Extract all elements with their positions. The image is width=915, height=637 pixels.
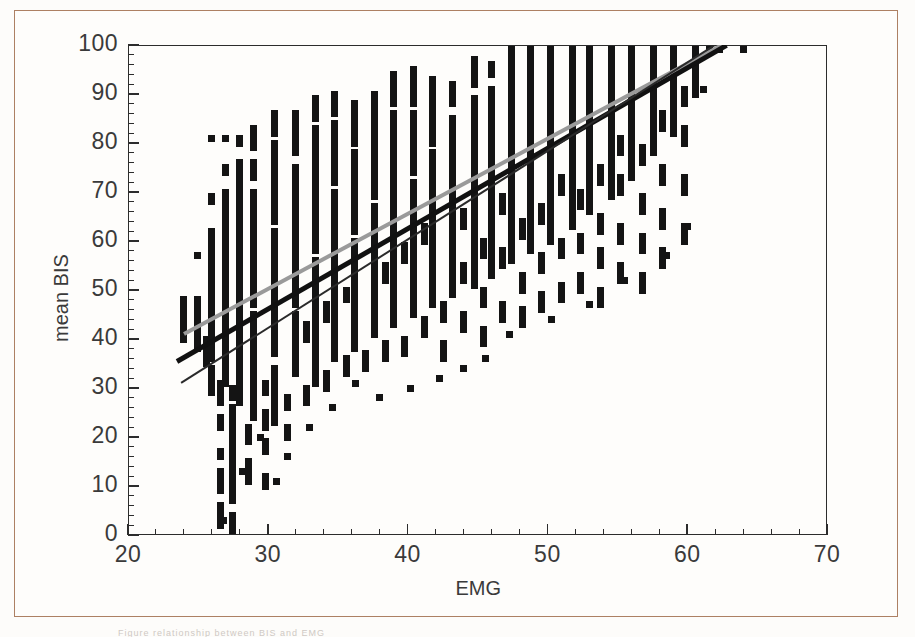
x-minor-tick — [183, 529, 184, 535]
x-minor-tick — [351, 529, 352, 535]
y-tick-label: 0 — [105, 520, 118, 547]
y-tick-label: 60 — [91, 226, 118, 253]
y-minor-tick — [128, 495, 134, 496]
y-minor-tick — [128, 525, 134, 526]
x-minor-tick — [211, 529, 212, 535]
x-axis-label: EMG — [456, 577, 502, 600]
x-minor-tick — [463, 529, 464, 535]
y-minor-tick — [128, 466, 134, 467]
y-minor-tick — [128, 74, 134, 75]
y-tick-label: 70 — [91, 177, 118, 204]
y-major-tick — [128, 338, 139, 340]
y-tick-label: 80 — [91, 128, 118, 155]
y-minor-tick — [128, 368, 134, 369]
y-minor-tick — [128, 123, 134, 124]
y-minor-tick — [128, 309, 134, 310]
x-tick-label: 30 — [255, 541, 282, 568]
y-minor-tick — [128, 260, 134, 261]
plot-area: 2030405060700102030405060708090100 mean … — [15, 11, 899, 618]
y-minor-tick — [128, 407, 134, 408]
y-minor-tick — [128, 417, 134, 418]
x-minor-tick — [295, 529, 296, 535]
x-minor-tick — [155, 529, 156, 535]
y-minor-tick — [128, 250, 134, 251]
plot-frame-box — [128, 45, 827, 535]
x-minor-tick — [631, 529, 632, 535]
y-minor-tick — [128, 201, 134, 202]
figure-border-frame: 2030405060700102030405060708090100 mean … — [14, 10, 898, 617]
x-minor-tick — [743, 529, 744, 535]
y-minor-tick — [128, 84, 134, 85]
x-major-tick — [547, 524, 549, 535]
y-minor-tick — [128, 505, 134, 506]
y-major-tick — [128, 240, 139, 242]
x-tick-label: 40 — [394, 541, 421, 568]
y-minor-tick — [128, 172, 134, 173]
y-minor-tick — [128, 280, 134, 281]
x-tick-label: 60 — [674, 541, 701, 568]
y-tick-label: 20 — [91, 422, 118, 449]
y-minor-tick — [128, 64, 134, 65]
y-major-tick — [128, 93, 139, 95]
y-minor-tick — [128, 211, 134, 212]
y-minor-tick — [128, 152, 134, 153]
y-major-tick — [128, 534, 139, 536]
x-major-tick — [267, 524, 269, 535]
y-minor-tick — [128, 221, 134, 222]
x-tick-label: 20 — [115, 541, 142, 568]
x-minor-tick — [603, 529, 604, 535]
y-major-tick — [128, 44, 139, 46]
y-major-tick — [128, 142, 139, 144]
y-minor-tick — [128, 270, 134, 271]
x-major-tick — [407, 524, 409, 535]
y-minor-tick — [128, 113, 134, 114]
y-minor-tick — [128, 476, 134, 477]
y-minor-tick — [128, 358, 134, 359]
x-major-tick — [826, 524, 828, 535]
y-major-tick — [128, 387, 139, 389]
y-minor-tick — [128, 231, 134, 232]
y-tick-label: 90 — [91, 79, 118, 106]
x-minor-tick — [491, 529, 492, 535]
caption-fragment: Figure relationship between BIS and EMG — [118, 628, 588, 637]
y-tick-label: 100 — [78, 30, 118, 57]
x-minor-tick — [519, 529, 520, 535]
y-minor-tick — [128, 348, 134, 349]
x-minor-tick — [239, 529, 240, 535]
x-tick-label: 70 — [814, 541, 841, 568]
y-major-tick — [128, 485, 139, 487]
x-minor-tick — [659, 529, 660, 535]
y-minor-tick — [128, 378, 134, 379]
y-tick-label: 50 — [91, 275, 118, 302]
x-minor-tick — [799, 529, 800, 535]
y-minor-tick — [128, 133, 134, 134]
x-minor-tick — [575, 529, 576, 535]
y-major-tick — [128, 289, 139, 291]
y-tick-label: 10 — [91, 471, 118, 498]
y-minor-tick — [128, 397, 134, 398]
y-tick-label: 30 — [91, 373, 118, 400]
y-minor-tick — [128, 515, 134, 516]
y-minor-tick — [128, 54, 134, 55]
y-minor-tick — [128, 427, 134, 428]
y-minor-tick — [128, 103, 134, 104]
y-axis-label: mean BIS — [50, 254, 73, 342]
y-minor-tick — [128, 299, 134, 300]
x-tick-label: 50 — [534, 541, 561, 568]
y-minor-tick — [128, 456, 134, 457]
y-tick-label: 40 — [91, 324, 118, 351]
y-major-tick — [128, 191, 139, 193]
x-minor-tick — [771, 529, 772, 535]
y-minor-tick — [128, 446, 134, 447]
y-major-tick — [128, 436, 139, 438]
x-minor-tick — [715, 529, 716, 535]
x-minor-tick — [323, 529, 324, 535]
x-major-tick — [686, 524, 688, 535]
y-minor-tick — [128, 329, 134, 330]
y-minor-tick — [128, 182, 134, 183]
y-minor-tick — [128, 319, 134, 320]
x-minor-tick — [435, 529, 436, 535]
x-minor-tick — [379, 529, 380, 535]
y-minor-tick — [128, 162, 134, 163]
